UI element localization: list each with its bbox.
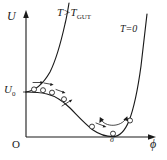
- motion-arrow: [96, 123, 104, 126]
- curve-hot-label: T>TGUT: [57, 7, 91, 21]
- sigma-tick-label: σ: [110, 136, 114, 144]
- u0-tick-label-sub: 0: [12, 90, 16, 98]
- u-axis-arrowhead: [23, 10, 29, 18]
- potential-plot-svg: [0, 0, 167, 160]
- motion-arrow: [44, 83, 51, 84]
- rolling-ball: [62, 97, 67, 102]
- u0-tick-label: U0: [4, 84, 15, 98]
- u-axis-label: U: [7, 10, 16, 22]
- effective-potential-figure: U ϕ O U0 T>TGUT T=0 σ: [0, 0, 167, 160]
- curve-cold-label: T=0: [120, 24, 137, 34]
- u0-tick-label-main: U: [4, 83, 12, 95]
- oscillation-arc-arrowhead-right: [123, 116, 128, 121]
- rolling-ball: [90, 124, 95, 129]
- motion-arrowhead: [62, 91, 66, 94]
- rolling-ball: [41, 88, 46, 93]
- rolling-ball: [128, 118, 133, 123]
- curve-hot-label-relation: >: [63, 6, 70, 18]
- curve-hot-label-sub: GUT: [77, 13, 91, 21]
- oscillation-arc: [101, 119, 126, 126]
- curve-cold-label-value: 0: [132, 23, 137, 34]
- motion-arrowhead: [50, 83, 54, 86]
- phi-axis-label: ϕ: [150, 138, 156, 150]
- rolling-ball: [32, 87, 37, 92]
- motion-arrows-group: [33, 81, 128, 127]
- rolling-ball: [50, 90, 55, 95]
- motion-arrow: [56, 90, 63, 93]
- origin-label: O: [12, 139, 20, 150]
